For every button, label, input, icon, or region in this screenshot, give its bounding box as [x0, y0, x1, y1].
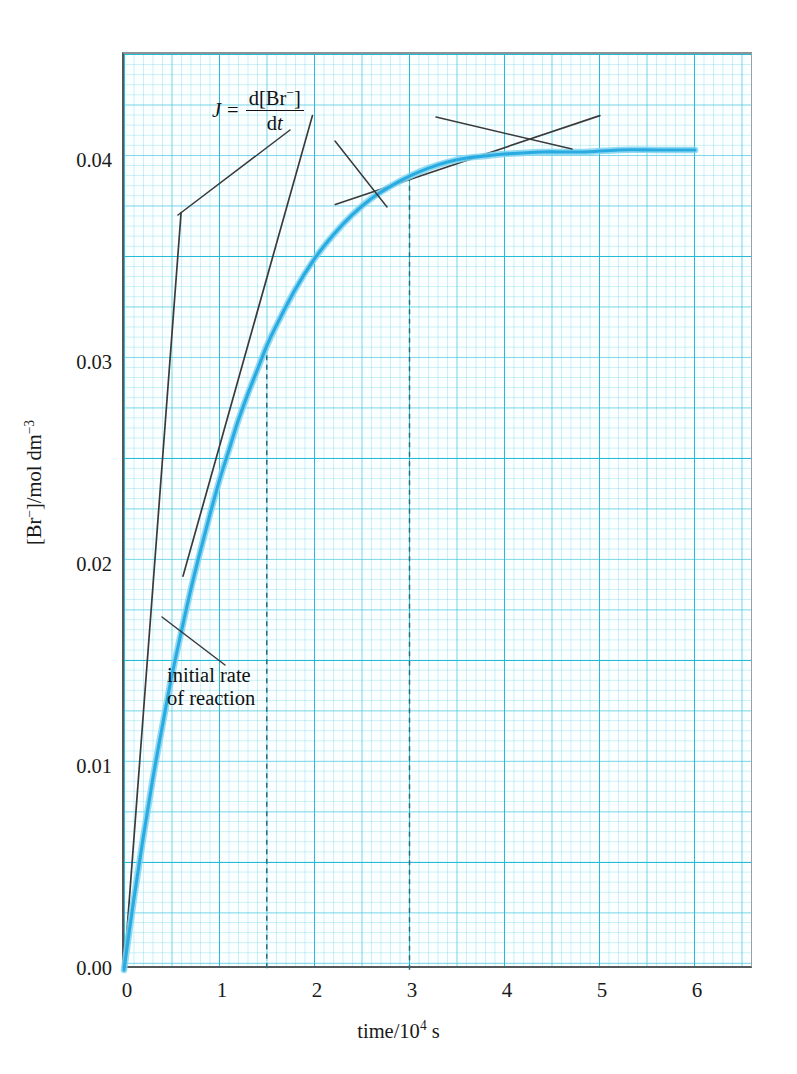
tangent-at-1.5 [183, 116, 312, 577]
initial-rate-annotation: initial rate of reaction [167, 664, 255, 711]
x-tick-label: 0 [107, 980, 147, 1001]
initial-rate-line-2: of reaction [167, 687, 255, 710]
denominator-t: t [277, 112, 283, 134]
x-tick-label: 1 [202, 980, 242, 1001]
fraction-numerator: d[Br−] [246, 86, 304, 111]
y-tick-label: 0.02 [50, 554, 112, 575]
leader-to-tangent-1p5 [335, 141, 387, 207]
x-tick-label: 3 [392, 980, 432, 1001]
y-tick-label: 0.03 [50, 352, 112, 373]
derivative-fraction: d[Br−] dt [246, 86, 304, 134]
x-tick-label: 4 [487, 980, 527, 1001]
rate-symbol-J: J [212, 99, 221, 122]
denominator-d: d [267, 112, 277, 134]
dashed-marker-lines [267, 176, 410, 970]
x-axis-tick-labels: 0 1 2 3 4 5 6 [0, 980, 797, 1014]
y-axis-title-mid: ]/mol dm [23, 434, 45, 510]
x-axis-title-exponent: 4 [420, 1018, 427, 1033]
y-tick-label: 0.01 [50, 756, 112, 777]
x-tick-label: 5 [582, 980, 622, 1001]
tangent-lines [124, 116, 600, 970]
x-tick-label: 2 [297, 980, 337, 1001]
equals-sign: = [227, 99, 239, 122]
x-axis-title-unit: s [427, 1020, 440, 1042]
numerator-suffix: ] [294, 87, 301, 109]
leader-to-initial-tangent [178, 130, 290, 215]
x-axis-title: time/104 s [0, 1018, 797, 1043]
y-axis-title-prefix: [Br [23, 518, 45, 545]
numerator-charge: − [286, 85, 294, 100]
plot-svg [124, 54, 754, 970]
y-tick-label: 0.00 [50, 958, 112, 979]
initial-rate-tangent [124, 213, 181, 970]
y-tick-label: 0.04 [50, 150, 112, 171]
leader-to-tangent-3p0 [436, 117, 572, 149]
y-axis-tick-labels: 0.04 0.03 0.02 0.01 0.00 [48, 0, 112, 1074]
leader-initial-rate-label [162, 617, 225, 665]
x-tick-label: 6 [677, 980, 717, 1001]
y-axis-title-charge: − [22, 510, 37, 518]
y-axis-title-exponent: −3 [22, 420, 37, 434]
plot-area [122, 52, 752, 968]
figure-page: 0.04 0.03 0.02 0.01 0.00 [Br−]/mol dm−3 … [0, 0, 797, 1074]
fraction-denominator: dt [267, 111, 283, 134]
x-axis-title-text: time/10 [357, 1020, 420, 1042]
numerator-prefix: d[Br [249, 87, 287, 109]
initial-rate-line-1: initial rate [167, 664, 255, 687]
rate-definition-annotation: J = d[Br−] dt [212, 86, 304, 134]
y-axis-title: [Br−]/mol dm−3 [22, 292, 47, 672]
